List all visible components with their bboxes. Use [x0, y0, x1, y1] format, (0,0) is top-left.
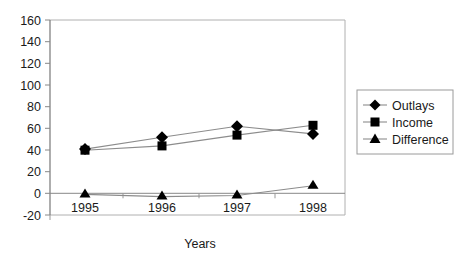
x-tick-label: 1997	[223, 201, 251, 215]
y-tick-label: 60	[27, 122, 41, 136]
square-marker-icon	[371, 118, 380, 127]
x-tick-label: 1996	[148, 201, 176, 215]
x-tick-label: 1998	[299, 201, 327, 215]
legend-label-difference: Difference	[392, 133, 449, 147]
x-axis-title: Years	[184, 237, 216, 251]
y-tick-label: 40	[27, 144, 41, 158]
line-chart: 160 140 120 100 80 60 40 20 0 -20	[0, 0, 463, 267]
chart-canvas: 160 140 120 100 80 60 40 20 0 -20	[0, 0, 463, 267]
x-tick-label: 1995	[71, 201, 99, 215]
y-tick-label: 160	[20, 14, 41, 28]
square-marker-icon	[233, 131, 242, 140]
square-marker-icon	[81, 146, 90, 155]
square-marker-icon	[309, 121, 318, 130]
legend-label-income: Income	[392, 116, 433, 130]
y-tick-label: -20	[23, 209, 41, 223]
legend-label-outlays: Outlays	[392, 99, 434, 113]
y-tick-label: 0	[34, 187, 41, 201]
y-tick-label: 140	[20, 35, 41, 49]
square-marker-icon	[158, 141, 167, 150]
y-tick-label: 120	[20, 57, 41, 71]
y-tick-label: 20	[27, 165, 41, 179]
y-tick-label: 100	[20, 79, 41, 93]
y-tick-label: 80	[27, 100, 41, 114]
chart-legend: Outlays Income Difference	[357, 90, 453, 154]
